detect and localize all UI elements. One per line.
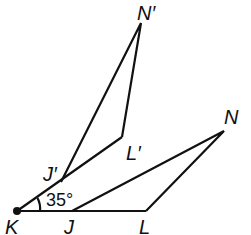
triangle-JLN — [72, 131, 224, 211]
rotation-diagram: 35° K J L N J′ L′ N′ — [0, 0, 251, 235]
label-J-prime: J′ — [42, 163, 58, 185]
label-N: N — [224, 106, 239, 128]
angle-arc — [38, 198, 41, 211]
center-point-K — [13, 207, 21, 215]
label-K: K — [5, 216, 20, 235]
label-N-prime: N′ — [137, 2, 156, 24]
label-L-prime: L′ — [126, 142, 142, 164]
angle-label: 35° — [46, 190, 73, 210]
label-J: J — [63, 216, 75, 235]
label-L: L — [139, 216, 150, 235]
